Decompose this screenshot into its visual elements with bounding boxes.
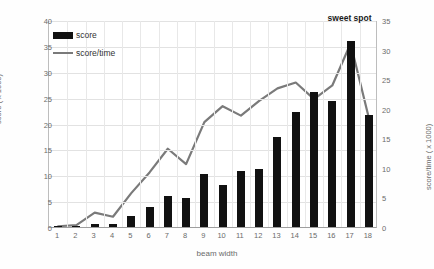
- bar: [91, 224, 99, 227]
- gridline-vertical: [305, 21, 306, 227]
- bar: [127, 216, 135, 227]
- legend-item-score: score: [53, 26, 115, 44]
- gridline-horizontal: [49, 99, 376, 100]
- y-axis-right-tick-label: 15: [382, 135, 422, 144]
- gridline-vertical: [287, 21, 288, 227]
- y-axis-right-tick-label: 35: [382, 17, 422, 26]
- chart-container: 0510152025303540 05101520253035 12345678…: [0, 0, 434, 269]
- bar: [72, 226, 80, 227]
- x-axis-title: beam width: [0, 249, 434, 258]
- bar: [347, 41, 355, 227]
- x-axis-tick-label: 18: [357, 231, 379, 240]
- bar: [164, 196, 172, 227]
- gridline-horizontal: [49, 176, 376, 177]
- chart-legend: score score/time: [53, 26, 115, 62]
- y-axis-right-tick-label: 20: [382, 105, 422, 114]
- y-axis-left-tick-label: 35: [12, 42, 52, 51]
- line-swatch-icon: [53, 52, 73, 55]
- bar: [310, 92, 318, 227]
- y-axis-left-tick-label: 10: [12, 172, 52, 181]
- y-axis-right-title: score/time ( x 1000): [424, 124, 433, 190]
- y-axis-left-tick-label: 20: [12, 120, 52, 129]
- bar: [292, 112, 300, 227]
- gridline-vertical: [341, 21, 342, 227]
- y-axis-right-tick-label: 5: [382, 194, 422, 203]
- gridline-horizontal: [49, 150, 376, 151]
- gridline-horizontal: [49, 125, 376, 126]
- gridline-vertical: [323, 21, 324, 227]
- y-axis-left-title: score ( x 1000): [0, 74, 3, 124]
- bar: [219, 185, 227, 227]
- y-axis-left-tick-label: 40: [12, 17, 52, 26]
- y-axis-right-tick-label: 10: [382, 164, 422, 173]
- bar: [237, 171, 245, 227]
- bar: [200, 174, 208, 227]
- gridline-vertical: [268, 21, 269, 227]
- y-axis-right-tick-label: 30: [382, 46, 422, 55]
- gridline-horizontal: [49, 73, 376, 74]
- bar: [273, 137, 281, 227]
- bar: [255, 169, 263, 227]
- bar: [54, 226, 62, 227]
- legend-label-score: score: [76, 30, 97, 40]
- gridline-vertical: [177, 21, 178, 227]
- gridline-vertical: [140, 21, 141, 227]
- y-axis-left-tick-label: 30: [12, 68, 52, 77]
- y-axis-left-tick-label: 25: [12, 94, 52, 103]
- y-axis-left-tick-label: 15: [12, 146, 52, 155]
- gridline-vertical: [232, 21, 233, 227]
- bar-swatch-icon: [53, 32, 73, 39]
- gridline-vertical: [195, 21, 196, 227]
- bar: [146, 207, 154, 227]
- bar: [109, 224, 117, 227]
- y-axis-right-tick-label: 0: [382, 224, 422, 233]
- y-axis-left-tick-label: 5: [12, 198, 52, 207]
- gridline-vertical: [250, 21, 251, 227]
- legend-item-score-per-time: score/time: [53, 44, 115, 62]
- legend-label-score-per-time: score/time: [76, 48, 115, 58]
- gridline-horizontal: [49, 202, 376, 203]
- bar: [182, 198, 190, 227]
- gridline-vertical: [360, 21, 361, 227]
- y-axis-right-tick-label: 25: [382, 76, 422, 85]
- bar: [365, 115, 373, 227]
- bar: [328, 101, 336, 227]
- gridline-vertical: [122, 21, 123, 227]
- gridline-vertical: [159, 21, 160, 227]
- sweet-spot-annotation: sweet spot: [328, 13, 372, 23]
- gridline-vertical: [214, 21, 215, 227]
